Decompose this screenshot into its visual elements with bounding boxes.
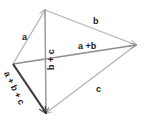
vector-c-arrow — [46, 45, 136, 113]
vector-diagram: a b a +b c b + c a + b + c — [0, 0, 145, 129]
vector-a-plus-b-arrow — [13, 45, 136, 64]
vector-label-c: c — [96, 85, 101, 94]
vector-b-arrow — [45, 10, 136, 45]
vector-label-b-plus-c: b + c — [47, 49, 56, 70]
vector-label-a-plus-b: a +b — [78, 42, 96, 51]
vector-a-arrow — [13, 10, 45, 64]
vector-diagram-canvas — [0, 0, 145, 129]
vector-label-b: b — [93, 17, 99, 26]
vector-label-a: a — [22, 33, 27, 42]
